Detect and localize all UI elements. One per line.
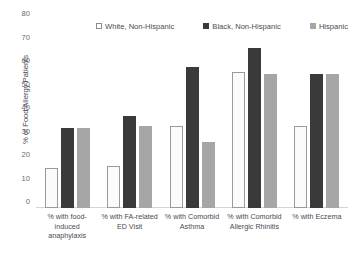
bar[interactable] xyxy=(139,126,152,208)
x-axis-category-label-line: induced xyxy=(37,222,97,232)
y-axis-tick-label: 80 xyxy=(8,10,30,18)
x-axis-category-label-line: Asthma xyxy=(162,222,222,232)
x-axis-category-label: % with FA-relatedED Visit xyxy=(98,212,160,254)
chart-title xyxy=(0,0,351,7)
bar-group-bars xyxy=(286,20,348,208)
bar[interactable] xyxy=(186,67,199,208)
x-axis-category-label-line: % with FA-related xyxy=(99,212,159,222)
bar-chart: White, Non-HispanicBlack, Non-HispanicHi… xyxy=(0,0,351,254)
bar-group-bars xyxy=(36,20,98,208)
bar[interactable] xyxy=(232,72,245,208)
x-axis-category-label-line: % with Comorbid xyxy=(224,212,284,222)
x-axis-category-label-line: % with food- xyxy=(37,212,97,222)
bar[interactable] xyxy=(123,116,136,208)
bar[interactable] xyxy=(264,74,277,208)
bar[interactable] xyxy=(310,74,323,208)
plot-area xyxy=(36,20,348,208)
bar[interactable] xyxy=(61,128,74,208)
y-axis-tick-label: 50 xyxy=(8,81,30,89)
y-axis-tick-labels: 80706050403020100 xyxy=(8,14,30,214)
bar-group-bars xyxy=(98,20,160,208)
bar[interactable] xyxy=(170,126,183,208)
bar[interactable] xyxy=(202,142,215,208)
x-axis-category-label: % with ComorbidAsthma xyxy=(161,212,223,254)
bar-group xyxy=(36,20,98,208)
x-axis-category-label-line: ED Visit xyxy=(99,222,159,232)
y-axis-tick-label: 40 xyxy=(8,104,30,112)
x-axis-category-label-line: Allergic Rhinitis xyxy=(224,222,284,232)
x-axis-category-label: % with Eczema xyxy=(286,212,348,254)
x-axis-category-label-line: % with Eczema xyxy=(287,212,347,222)
bar[interactable] xyxy=(45,168,58,208)
bar-group xyxy=(98,20,160,208)
bar[interactable] xyxy=(248,48,261,208)
y-axis-tick-label: 10 xyxy=(8,175,30,183)
bar-group xyxy=(286,20,348,208)
bar[interactable] xyxy=(107,166,120,208)
bar[interactable] xyxy=(326,74,339,208)
x-axis-category-label: % with ComorbidAllergic Rhinitis xyxy=(223,212,285,254)
x-axis-category-label: % with food-inducedanaphylaxis xyxy=(36,212,98,254)
y-axis-tick-label: 20 xyxy=(8,151,30,159)
bar-group-bars xyxy=(223,20,285,208)
bar-group-bars xyxy=(161,20,223,208)
bar[interactable] xyxy=(77,128,90,208)
y-axis-tick-label: 60 xyxy=(8,57,30,65)
bar-groups xyxy=(36,20,348,208)
y-axis-tick-label: 70 xyxy=(8,34,30,42)
bar[interactable] xyxy=(294,126,307,208)
bar-group xyxy=(161,20,223,208)
bar-group xyxy=(223,20,285,208)
x-axis-category-label-line: anaphylaxis xyxy=(37,231,97,241)
x-axis-category-labels: % with food-inducedanaphylaxis% with FA-… xyxy=(36,212,348,254)
y-axis-tick-label: 0 xyxy=(8,198,30,206)
x-axis-category-label-line: % with Comorbid xyxy=(162,212,222,222)
y-axis-tick-label: 30 xyxy=(8,128,30,136)
